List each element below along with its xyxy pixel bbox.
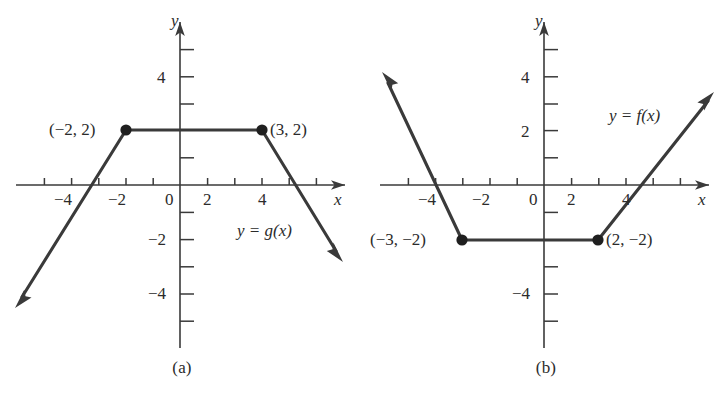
curve-g-left-arrow-icon	[15, 290, 32, 308]
x-tick-label-2: 2	[203, 191, 212, 208]
x-tick-label-minus2: −2	[472, 191, 490, 208]
curve-g	[15, 124, 343, 308]
figure-container: y x −4 −2 0 2 4 4 −2 −4 (−2, 2) (3, 2) y…	[0, 0, 728, 407]
panel-b-caption: (b)	[364, 358, 728, 378]
point-label-3-2: (3, 2)	[270, 121, 307, 138]
x-tick-label-zero: 0	[165, 191, 174, 208]
point-marker-minus2-2	[120, 124, 131, 135]
point-label-minus3-minus2: (−3, −2)	[370, 231, 426, 248]
y-axis-label: y	[171, 12, 179, 29]
y-tick-label-4: 4	[521, 69, 530, 86]
y-tick-label-4: 4	[157, 69, 166, 86]
y-tick-label-minus2: −2	[148, 231, 166, 248]
y-tick-label-2: 2	[521, 123, 530, 140]
x-tick-label-2: 2	[567, 191, 576, 208]
x-tick-label-4: 4	[258, 191, 267, 208]
x-axis-label: x	[698, 191, 706, 208]
y-tick-label-minus4: −4	[148, 285, 166, 302]
x-tick-label-minus2: −2	[108, 191, 126, 208]
function-label-f: y = f(x)	[609, 107, 660, 124]
x-tick-label-minus4: −4	[54, 191, 72, 208]
point-marker-2-minus2	[592, 234, 603, 245]
panel-b-axes	[380, 22, 709, 348]
y-axis-label: y	[535, 12, 543, 29]
function-label-g: y = g(x)	[237, 222, 292, 239]
curve-f-right-arrow-icon	[697, 92, 714, 111]
curve-g-path	[22, 130, 336, 297]
x-tick-label-zero: 0	[529, 191, 538, 208]
point-marker-minus3-minus2	[456, 234, 467, 245]
x-tick-label-4: 4	[622, 191, 631, 208]
panel-a-caption: (a)	[0, 358, 364, 378]
point-label-minus2-2: (−2, 2)	[49, 121, 95, 138]
curve-f-left-arrow-icon	[382, 72, 398, 91]
x-tick-label-minus4: −4	[418, 191, 436, 208]
graph-panel-a: y x −4 −2 0 2 4 4 −2 −4 (−2, 2) (3, 2) y…	[0, 0, 364, 407]
graph-panel-b: y x −4 −2 0 2 4 4 2 −4 (−3, −2) (2, −2) …	[364, 0, 728, 407]
curve-g-right-arrow-icon	[327, 243, 343, 262]
y-tick-label-minus4: −4	[512, 285, 530, 302]
point-label-2-minus2: (2, −2)	[606, 231, 652, 248]
point-marker-3-2	[256, 124, 267, 135]
curve-f	[382, 72, 714, 246]
x-axis-label: x	[334, 191, 342, 208]
